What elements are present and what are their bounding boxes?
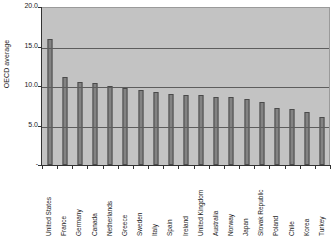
x-axis-tick-label: Sweden — [136, 213, 143, 237]
x-axis-tick-label: Italy — [151, 224, 158, 236]
y-axis-tick-mark — [38, 47, 42, 48]
x-axis-tick-label: Turkey — [318, 216, 325, 236]
bar[interactable] — [93, 83, 98, 165]
x-axis-tick-mark — [300, 166, 301, 169]
x-axis-tick-label: Norway — [227, 214, 234, 236]
bar-chart: OECD average 20.015.010.05.0- United Sta… — [0, 0, 334, 237]
y-axis-tick-label: 10.0 — [12, 81, 38, 88]
y-axis-tick-label: 15.0 — [12, 42, 38, 49]
x-axis-tick-mark — [224, 166, 225, 169]
x-axis-tick-label: Germany — [75, 209, 82, 236]
gridline — [42, 127, 329, 128]
plot-area — [42, 7, 330, 165]
bar[interactable] — [183, 95, 188, 165]
x-axis-tick-mark — [103, 166, 104, 169]
x-axis-tick-mark — [315, 166, 316, 169]
bar[interactable] — [290, 109, 295, 165]
bar[interactable] — [320, 117, 325, 165]
x-axis-tick-label: Japan — [242, 218, 249, 236]
x-axis-tick-label: Spain — [166, 219, 173, 236]
x-axis-tick-mark — [254, 166, 255, 169]
bar[interactable] — [153, 92, 158, 165]
y-axis-tick-mark — [38, 86, 42, 87]
x-axis-tick-label: Canada — [91, 213, 98, 236]
x-axis-tick-label: Greece — [121, 215, 128, 236]
x-axis-tick-mark — [330, 166, 331, 169]
bar[interactable] — [47, 39, 52, 165]
x-axis-tick-label: Australia — [212, 211, 219, 236]
x-axis-tick-labels: United StatesFranceGermanyCanadaNetherla… — [42, 170, 330, 236]
x-axis-tick-mark — [57, 166, 58, 169]
bar[interactable] — [244, 99, 249, 165]
x-axis-tick-mark — [42, 166, 43, 169]
x-axis-tick-label: Korea — [303, 219, 310, 236]
bar[interactable] — [305, 112, 310, 165]
x-axis-tick-mark — [178, 166, 179, 169]
x-axis-tick-mark — [285, 166, 286, 169]
bar[interactable] — [108, 86, 113, 165]
y-axis-tick-label: 20.0 — [12, 2, 38, 9]
bar[interactable] — [274, 108, 279, 165]
bar[interactable] — [168, 94, 173, 165]
x-axis-tick-label: Ireland — [182, 216, 189, 236]
bar[interactable] — [62, 77, 67, 165]
x-axis-tick-mark — [133, 166, 134, 169]
y-axis-tick-label: - — [12, 160, 38, 167]
y-axis-tick-label: 5.0 — [12, 121, 38, 128]
x-axis-tick-label: United Kingdom — [197, 190, 204, 236]
x-axis-tick-label: Poland — [272, 216, 279, 236]
x-axis-tick-mark — [209, 166, 210, 169]
bar[interactable] — [229, 97, 234, 165]
gridline — [42, 87, 329, 88]
x-axis-line — [42, 165, 331, 166]
bar[interactable] — [259, 102, 264, 165]
x-axis-tick-label: Chile — [288, 221, 295, 236]
bar[interactable] — [199, 95, 204, 165]
bar[interactable] — [214, 97, 219, 165]
y-axis-tick-mark — [38, 126, 42, 127]
x-axis-tick-mark — [118, 166, 119, 169]
x-axis-tick-label: France — [60, 216, 67, 236]
x-axis-tick-mark — [269, 166, 270, 169]
x-axis-tick-label: Slovak Republic — [257, 189, 264, 236]
gridline — [42, 48, 329, 49]
y-axis-tick-labels: 20.015.010.05.0- — [12, 0, 38, 237]
x-axis-tick-mark — [148, 166, 149, 169]
x-axis-tick-label: United States — [45, 197, 52, 236]
x-axis-tick-label: Netherlands — [106, 201, 113, 236]
x-axis-tick-mark — [163, 166, 164, 169]
x-axis-tick-mark — [194, 166, 195, 169]
x-axis-tick-mark — [239, 166, 240, 169]
y-axis-tick-mark — [38, 7, 42, 8]
x-axis-tick-mark — [87, 166, 88, 169]
x-axis-tick-mark — [72, 166, 73, 169]
bar[interactable] — [77, 82, 82, 165]
